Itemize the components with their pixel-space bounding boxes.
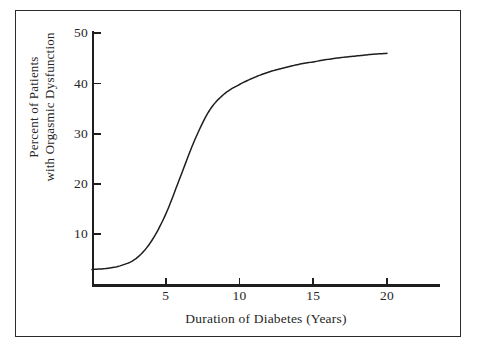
y-tick-10 — [94, 233, 101, 235]
y-tick-label-20: 20 — [62, 177, 88, 191]
x-tick-15 — [312, 278, 314, 285]
chart-plot-area: 1020304050 5101520 Duration of Diabetes … — [0, 0, 478, 352]
x-tick-10 — [239, 278, 241, 285]
x-axis-title: Duration of Diabetes (Years) — [92, 311, 440, 327]
x-tick-label-5: 5 — [146, 289, 186, 303]
x-tick-20 — [386, 278, 388, 285]
y-tick-label-40: 40 — [62, 77, 88, 91]
y-tick-30 — [94, 133, 101, 135]
x-tick-label-15: 15 — [293, 289, 333, 303]
y-tick-50 — [94, 32, 101, 34]
x-tick-label-20: 20 — [367, 289, 407, 303]
y-axis-title-line-1: Percent of Patients — [26, 12, 42, 202]
x-tick-label-10: 10 — [220, 289, 260, 303]
y-tick-label-50: 50 — [62, 26, 88, 40]
y-tick-40 — [94, 83, 101, 85]
y-tick-label-10: 10 — [62, 227, 88, 241]
y-axis-title: Percent of Patients with Orgasmic Dysfun… — [26, 12, 60, 202]
y-tick-label-30: 30 — [62, 127, 88, 141]
y-axis-title-line-2: with Orgasmic Dysfunction — [42, 12, 58, 202]
y-tick-20 — [94, 183, 101, 185]
x-tick-5 — [165, 278, 167, 285]
